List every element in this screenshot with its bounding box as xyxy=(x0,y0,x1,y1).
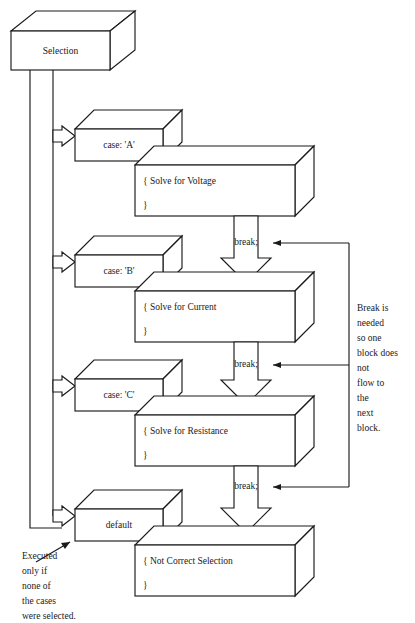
case-c-body-top-face xyxy=(135,396,314,415)
case-b-body-front-face xyxy=(135,291,295,342)
case-a-body-top-face xyxy=(135,146,314,165)
default-note-line-2: none of xyxy=(22,581,52,591)
break-return-arrow-c xyxy=(273,484,349,490)
case-c-body-front-face xyxy=(135,415,295,466)
case-block-c[interactable]: case: 'C' { Solve for Resistance } xyxy=(75,360,314,466)
case-a-body-front-face xyxy=(135,165,295,216)
break-label-c: break; xyxy=(234,481,258,491)
case-b-body-close: } xyxy=(143,326,148,336)
case-b-body-top-face xyxy=(135,272,314,291)
default-body-close: } xyxy=(143,580,148,590)
selection-box[interactable]: Selection xyxy=(11,11,135,70)
case-block-b[interactable]: case: 'B' { Solve for Current } xyxy=(75,236,314,342)
break-note: Break is needed so one block does not fl… xyxy=(357,303,398,433)
case-b-label: case: 'B' xyxy=(103,266,134,276)
break-label-a: break; xyxy=(234,237,258,247)
case-block-a[interactable]: case: 'A' { Solve for Voltage } xyxy=(75,110,314,216)
default-note-line-1: only if xyxy=(22,566,48,576)
break-note-line-2: so one xyxy=(357,333,382,343)
break-note-line-6: the xyxy=(357,393,369,403)
case-b-body-open: { Solve for Current xyxy=(143,302,217,312)
default-block[interactable]: default { Not Correct Selection } xyxy=(75,490,314,596)
default-body-top-face xyxy=(135,526,314,545)
case-a-label: case: 'A' xyxy=(103,140,135,150)
break-arrow-c: break; xyxy=(221,466,271,533)
branch-arrow-case-c xyxy=(53,376,75,396)
break-arrow-c-shape xyxy=(221,466,271,533)
case-a-body-close: } xyxy=(143,200,148,210)
break-label-b: break; xyxy=(234,359,258,369)
default-body-front-face xyxy=(135,545,295,596)
default-note-line-0: Executed xyxy=(22,551,58,561)
case-c-label: case: 'C' xyxy=(103,390,134,400)
default-note-line-4: were selected. xyxy=(22,611,76,621)
flowchart-canvas: Selection case: 'A' { Solve for Voltage … xyxy=(0,0,415,623)
default-note: Executed only if none of the cases were … xyxy=(22,551,76,621)
break-return-arrow-b xyxy=(273,362,349,368)
default-note-line-3: the cases xyxy=(22,596,56,606)
selection-box-label: Selection xyxy=(43,46,79,56)
default-label: default xyxy=(106,520,133,530)
branch-arrow-default xyxy=(53,506,75,526)
default-body-open: { Not Correct Selection xyxy=(143,556,233,566)
branch-arrow-case-b xyxy=(53,252,75,272)
break-note-line-5: flow to xyxy=(357,378,384,388)
break-note-line-4: not xyxy=(357,363,370,373)
flowchart-diagram: Selection case: 'A' { Solve for Voltage … xyxy=(0,0,415,623)
branch-arrow-case-a xyxy=(53,126,75,146)
break-note-line-0: Break is xyxy=(357,303,389,313)
break-note-line-3: block does xyxy=(357,348,398,358)
break-note-line-8: block. xyxy=(357,423,380,433)
break-note-line-1: needed xyxy=(357,318,384,328)
case-a-body-open: { Solve for Voltage xyxy=(143,176,216,186)
case-c-body-close: } xyxy=(143,450,148,460)
break-return-arrow-a xyxy=(273,240,349,246)
break-note-line-7: next xyxy=(357,408,374,418)
case-c-body-open: { Solve for Resistance xyxy=(143,426,228,436)
